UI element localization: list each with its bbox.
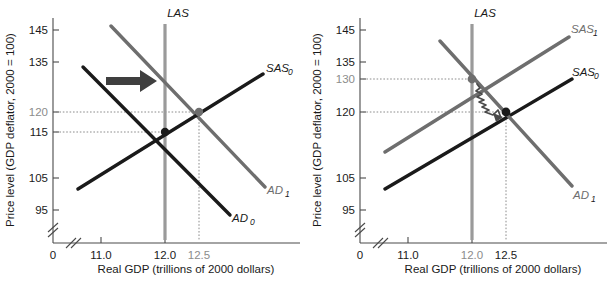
panel-b-chart: 145 135 130 120 105 95 0 11.0 12.0 12.5 … [307,0,615,283]
panel-a: 145 135 120 115 105 95 0 11.0 12.0 12.5 … [0,0,307,283]
curve-label-las: LAS [474,7,496,19]
x-tick-marks [101,237,165,243]
y-tick-label-135: 135 [29,56,48,68]
panel-a-chart: 145 135 120 115 105 95 0 11.0 12.0 12.5 … [0,0,307,283]
y-axis-title: Price level (GDP deflator, 2000 = 100) [311,33,323,227]
guide-lines [56,112,199,240]
x-tick-label-12: 12.0 [154,249,176,261]
equilibrium-point-above-full-employment [502,108,511,117]
x-tick-label-12: 12.0 [461,249,483,261]
curve-label-ad1-sub: 1 [591,194,596,204]
curve-label-sas0-group: SAS 0 [266,62,293,77]
x-tick-label-0: 0 [357,249,363,261]
curve-label-las: LAS [167,7,189,19]
equilibrium-point-initial [161,128,169,136]
x-tick-label-125: 12.5 [495,249,517,261]
x-tick-label-11: 11.0 [90,249,112,261]
y-tick-label-120: 120 [29,106,48,118]
y-axis-title: Price level (GDP deflator, 2000 = 100) [4,33,16,227]
panel-b: 145 135 130 120 105 95 0 11.0 12.0 12.5 … [307,0,614,283]
y-tick-marks [53,30,59,210]
y-tick-label-105: 105 [336,172,355,184]
curve-label-sas1-group: SAS 1 [571,23,598,38]
shift-arrow-icon [106,70,157,92]
curve-label-sas0: SAS [266,62,289,74]
equilibrium-point-new [195,108,203,116]
y-tick-label-145: 145 [29,24,48,36]
y-tick-label-95: 95 [342,204,355,216]
curve-label-ad1: AD [572,189,589,201]
equilibrium-point-las [468,75,477,84]
curve-label-sas0: SAS [572,66,595,78]
figure-container: 145 135 120 115 105 95 0 11.0 12.0 12.5 … [0,0,615,283]
x-tick-marks [408,237,472,243]
y-tick-label-95: 95 [35,204,48,216]
curve-label-sas0-group: SAS 0 [572,66,599,81]
curve-label-ad1-group: AD 1 [266,184,290,199]
curve-label-sas1-sub: 1 [593,28,598,38]
curve-label-ad0: AD [231,212,248,224]
x-axis-title: Real GDP (trillions of 2000 dollars) [405,263,582,275]
x-tick-label-125: 12.5 [188,249,210,261]
x-axis-title: Real GDP (trillions of 2000 dollars) [98,263,275,275]
y-tick-marks [360,30,366,210]
y-tick-label-115: 115 [30,126,48,138]
x-tick-label-11: 11.0 [397,249,419,261]
curve-label-sas0-sub: 0 [288,67,293,77]
y-tick-label-105: 105 [29,172,48,184]
curve-label-sas1: SAS [571,23,594,35]
y-tick-label-145: 145 [336,24,355,36]
curve-label-sas0-sub: 0 [594,71,599,81]
curve-label-ad0-sub: 0 [250,217,255,227]
curve-label-ad1-group: AD 1 [572,189,596,204]
x-tick-label-0: 0 [50,249,56,261]
y-tick-label-130: 130 [336,73,355,85]
curve-ad1 [111,26,265,187]
y-tick-label-135: 135 [336,56,355,68]
curve-label-ad0-group: AD 0 [231,212,255,227]
curve-label-ad1: AD [266,184,283,196]
y-tick-label-120: 120 [336,106,355,118]
curve-label-ad1-sub: 1 [285,189,290,199]
